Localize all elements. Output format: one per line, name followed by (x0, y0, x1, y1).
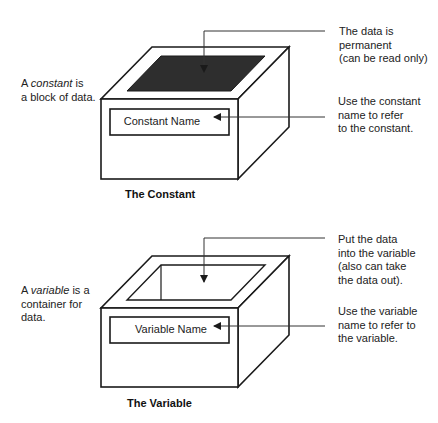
variable-callout-name: Use the variable name to refer to the va… (338, 305, 418, 346)
constant-description: A constant is a block of data. (21, 77, 96, 104)
constant-callout-permanent: The data is permanent (can be read only) (339, 25, 428, 66)
variable-name-label: Variable Name (126, 323, 216, 335)
variable-term: variable (31, 284, 70, 296)
constant-name-label: Constant Name (112, 115, 212, 127)
variable-caption: The Variable (127, 397, 192, 409)
variable-description: A variable is a container for data. (21, 284, 90, 325)
variable-callout-put-data: Put the data into the variable (also can… (338, 233, 416, 287)
constant-callout-name: Use the constant name to refer to the co… (338, 95, 421, 136)
constant-term: constant (31, 77, 73, 89)
constant-caption: The Constant (125, 188, 195, 200)
